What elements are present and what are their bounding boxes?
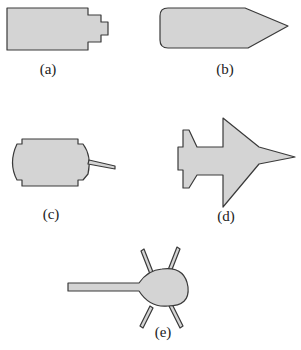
shape-c	[13, 139, 116, 186]
shape-a	[7, 8, 108, 50]
label-d: (d)	[217, 208, 235, 225]
label-b: (b)	[216, 61, 234, 78]
shapes-diagram	[0, 0, 301, 350]
label-a: (a)	[40, 61, 57, 78]
shape-e	[68, 247, 188, 328]
shape-d	[178, 118, 295, 207]
label-c: (c)	[43, 206, 60, 223]
label-e: (e)	[155, 324, 172, 341]
shape-b	[160, 8, 288, 48]
